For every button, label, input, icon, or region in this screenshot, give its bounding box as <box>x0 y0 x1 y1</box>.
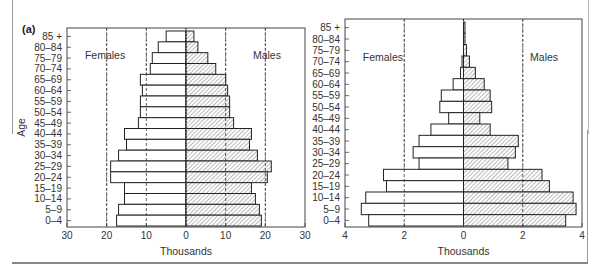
x-tick-label: 4 <box>342 230 348 241</box>
y-tick-label: 45–49 <box>34 118 62 129</box>
bar-male <box>186 118 234 129</box>
x-axis-title: Thousands <box>438 245 490 257</box>
bar-female <box>361 203 463 214</box>
bar-male <box>464 56 470 67</box>
y-tick-label: 45–49 <box>312 113 340 124</box>
y-tick-label: 75–79 <box>312 45 340 56</box>
population-pyramids: 85 +80–8475–7970–7465–6960–6455–5950–544… <box>0 0 596 268</box>
bar-male <box>464 124 491 135</box>
bar-female <box>138 118 186 129</box>
bar-female <box>152 53 186 64</box>
bar-male <box>186 194 255 205</box>
bar-female <box>119 204 186 215</box>
bar-male <box>464 147 516 158</box>
bar-female <box>111 161 186 172</box>
bar-male <box>464 215 566 226</box>
bar-male <box>464 113 480 124</box>
bar-female <box>140 96 186 107</box>
y-tick-label: 70–74 <box>312 56 340 67</box>
y-tick-label: 10–14 <box>34 193 62 204</box>
bar-male <box>186 74 226 85</box>
y-tick-label: 0–4 <box>323 215 340 226</box>
bar-male <box>186 215 261 226</box>
bar-female <box>419 158 463 169</box>
males-label: Males <box>530 51 558 63</box>
x-tick-label: 2 <box>401 230 407 241</box>
x-tick-label: 0 <box>183 230 189 241</box>
bar-female <box>140 107 186 118</box>
bar-male <box>464 169 543 180</box>
y-tick-label: 10–14 <box>312 192 340 203</box>
bar-male <box>464 101 492 112</box>
x-tick-label: 20 <box>101 230 113 241</box>
y-tick-label: 80–84 <box>34 42 62 53</box>
females-label: Females <box>363 51 403 63</box>
bar-female <box>366 192 464 203</box>
bar-female <box>111 172 186 183</box>
bar-female <box>140 74 186 85</box>
y-tick-label: 5–9 <box>323 204 340 215</box>
y-tick-label: 55–59 <box>312 90 340 101</box>
bar-male <box>464 135 519 146</box>
y-tick-label: 35–39 <box>34 139 62 150</box>
bar-female <box>419 135 463 146</box>
x-tick-label: 10 <box>220 230 232 241</box>
y-tick-label: 70–74 <box>34 63 62 74</box>
y-tick-label: 5–9 <box>45 204 62 215</box>
x-tick-label: 30 <box>61 230 73 241</box>
y-tick-label: 50–54 <box>34 107 62 118</box>
bar-female <box>127 139 187 150</box>
y-tick-label: 60–64 <box>34 85 62 96</box>
pyramid-chart-right: 85 +80–8475–7970–7465–6960–6455–5950–544… <box>312 19 585 257</box>
y-tick-label: 55–59 <box>34 96 62 107</box>
y-tick-label: 15–19 <box>34 183 62 194</box>
x-axis-title: Thousands <box>160 245 212 257</box>
y-tick-label: 85 + <box>42 31 62 42</box>
bar-female <box>125 194 186 205</box>
y-tick-label: 20–24 <box>34 172 62 183</box>
y-tick-label: 40–44 <box>34 128 62 139</box>
bar-male <box>186 150 257 161</box>
y-tick-label: 65–69 <box>34 74 62 85</box>
y-tick-label: 60–64 <box>312 79 340 90</box>
y-tick-label: 40–44 <box>312 124 340 135</box>
bar-male <box>464 203 577 214</box>
bar-male <box>464 158 508 169</box>
bar-female <box>449 113 464 124</box>
y-tick-label: 0–4 <box>45 215 62 226</box>
bar-female <box>440 101 464 112</box>
x-tick-label: 30 <box>299 230 311 241</box>
bar-male <box>186 183 251 194</box>
bar-female <box>119 150 186 161</box>
bar-female <box>117 215 186 226</box>
bar-male <box>464 181 550 192</box>
bar-female <box>125 183 186 194</box>
bar-female <box>413 147 463 158</box>
x-tick-label: 10 <box>141 230 153 241</box>
bar-male <box>186 139 249 150</box>
y-tick-label: 25–29 <box>34 161 62 172</box>
bar-male <box>186 129 251 140</box>
bar-male <box>186 204 259 215</box>
y-tick-label: 50–54 <box>312 102 340 113</box>
bar-male <box>464 192 574 203</box>
bar-male <box>464 79 485 90</box>
x-tick-label: 20 <box>260 230 272 241</box>
bar-male <box>464 67 476 78</box>
bar-female <box>453 79 463 90</box>
y-tick-label: 20–24 <box>312 170 340 181</box>
bar-male <box>186 107 230 118</box>
bar-female <box>384 169 464 180</box>
bar-male <box>186 53 208 64</box>
y-tick-label: 80–84 <box>312 34 340 45</box>
bar-female <box>166 31 186 42</box>
y-tick-label: 15–19 <box>312 181 340 192</box>
females-label: Females <box>85 49 125 61</box>
y-tick-label: 65–69 <box>312 68 340 79</box>
bar-female <box>142 85 186 96</box>
bar-female <box>386 181 463 192</box>
bar-male <box>464 90 491 101</box>
y-tick-label: 30–34 <box>312 147 340 158</box>
bar-male <box>186 96 230 107</box>
bar-female <box>150 64 186 75</box>
